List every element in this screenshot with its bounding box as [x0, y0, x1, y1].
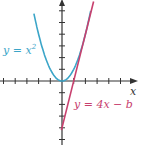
x-axis-label: x — [130, 86, 136, 97]
x-axis-arrow-icon — [130, 78, 138, 84]
plot-canvas — [0, 0, 142, 145]
y-axis-arrow-icon — [59, 0, 65, 6]
graph-figure: y = x2 y = 4x − b x — [0, 0, 142, 145]
line-label: y = 4x − b — [74, 99, 133, 110]
parabola-label: y = x2 — [3, 44, 36, 56]
